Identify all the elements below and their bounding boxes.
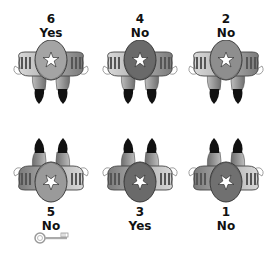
figure-answer: No: [186, 219, 266, 233]
figure-answer: No: [100, 26, 180, 40]
figure-label-5: 5 No: [11, 205, 91, 233]
figure-label-4: 4 No: [100, 12, 180, 40]
figure-number: 4: [100, 12, 180, 26]
figure-2: [186, 40, 266, 106]
figure-number: 6: [11, 12, 91, 26]
figure-label-6: 6 Yes: [11, 12, 91, 40]
figure-6: [11, 40, 91, 106]
figure-label-2: 2 No: [186, 12, 266, 40]
figure-number: 5: [11, 205, 91, 219]
figure-number: 2: [186, 12, 266, 26]
figure-5: [11, 138, 91, 204]
figure-answer: Yes: [11, 26, 91, 40]
figure-answer: Yes: [100, 219, 180, 233]
key-icon: [34, 231, 70, 245]
figure-answer: No: [186, 26, 266, 40]
figure-number: 1: [186, 205, 266, 219]
figure-1: [186, 138, 266, 204]
figure-label-1: 1 No: [186, 205, 266, 233]
figure-4: [100, 40, 180, 106]
figure-label-3: 3 Yes: [100, 205, 180, 233]
figure-number: 3: [100, 205, 180, 219]
figure-3: [100, 138, 180, 204]
